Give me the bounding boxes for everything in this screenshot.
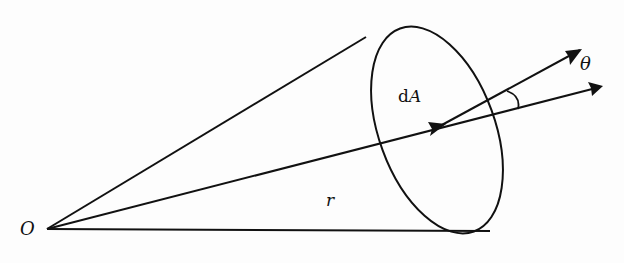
area-label-prefix: d (398, 86, 409, 106)
angle-arc (507, 91, 519, 109)
angle-theta-label: θ (580, 55, 591, 73)
radius-vector-line (47, 87, 600, 229)
area-label: dA (398, 88, 421, 105)
cone-lower-edge (47, 229, 490, 231)
radius-label: r (326, 192, 334, 209)
area-label-var: A (409, 86, 421, 106)
cone-upper-edge (47, 37, 366, 229)
diagram-svg (0, 0, 624, 263)
normal-vector-line (440, 50, 580, 126)
solid-angle-diagram: O r dA θ (0, 0, 624, 263)
origin-label: O (20, 220, 35, 238)
